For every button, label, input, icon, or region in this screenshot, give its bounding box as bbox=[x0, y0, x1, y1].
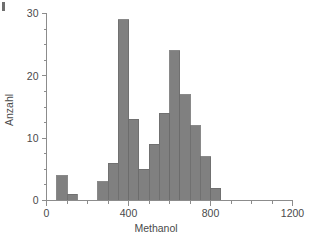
histogram-bar bbox=[149, 144, 159, 200]
histogram-figure: 040080012000102030 Methanol Anzahl bbox=[0, 0, 312, 238]
histogram-bar bbox=[67, 194, 77, 200]
x-axis-title: Methanol bbox=[134, 222, 177, 234]
y-axis-title: Anzahl bbox=[3, 94, 15, 126]
histogram-bar bbox=[129, 119, 139, 200]
histogram-bar bbox=[170, 51, 180, 201]
x-axis-tick-label: 400 bbox=[120, 207, 138, 219]
histogram-bar bbox=[98, 182, 108, 201]
histogram-bar bbox=[180, 95, 190, 201]
histogram-bar bbox=[118, 20, 128, 201]
histogram-bar bbox=[200, 157, 210, 201]
y-axis-tick-label: 10 bbox=[27, 132, 39, 144]
x-axis-tick-label: 1200 bbox=[281, 207, 305, 219]
histogram-bar bbox=[211, 188, 221, 200]
y-axis-tick-label: 0 bbox=[33, 194, 39, 206]
page-edge-artifact bbox=[2, 2, 5, 11]
histogram-bar bbox=[108, 163, 118, 200]
histogram-plot: 040080012000102030 Methanol Anzahl bbox=[0, 0, 312, 238]
x-axis-tick-label: 0 bbox=[44, 207, 50, 219]
histogram-bar bbox=[159, 113, 169, 200]
x-axis-tick-label: 800 bbox=[202, 207, 220, 219]
y-axis-tick-label: 20 bbox=[27, 70, 39, 82]
histogram-bar bbox=[57, 176, 67, 201]
histogram-bar bbox=[190, 126, 200, 201]
y-axis-tick-label: 30 bbox=[27, 7, 39, 19]
bars-group bbox=[57, 20, 221, 201]
histogram-bar bbox=[139, 169, 149, 200]
